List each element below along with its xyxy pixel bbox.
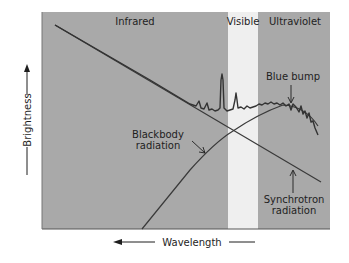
- blackbody-label-line2: radiation: [136, 140, 181, 151]
- synchrotron-label-line2: radiation: [272, 205, 317, 216]
- blackbody-label-line1: Blackbody: [132, 129, 184, 140]
- y-axis-label: Brightness: [22, 93, 33, 146]
- blue-bump-label: Blue bump: [266, 71, 320, 82]
- y-axis-label-group: Brightness: [22, 64, 33, 175]
- region-label-visible: Visible: [227, 16, 260, 27]
- region-label-ultraviolet: Ultraviolet: [269, 16, 321, 27]
- quasar-spectrum-diagram: Infrared Visible Ultraviolet Blue bump B…: [0, 0, 349, 263]
- visible-band: [228, 12, 258, 229]
- synchrotron-label-line1: Synchrotron: [264, 194, 325, 205]
- x-axis-label: Wavelength: [162, 237, 221, 248]
- x-axis-label-group: Wavelength: [113, 237, 255, 248]
- y-axis-arrowhead-icon: [24, 64, 30, 72]
- region-label-infrared: Infrared: [115, 16, 154, 27]
